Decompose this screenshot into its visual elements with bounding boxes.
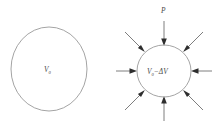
pressure-label: P: [160, 6, 166, 15]
pressure-arrow-top-left: [125, 32, 145, 52]
figure-canvas: V0: [0, 0, 216, 127]
uncompressed-volume-label: V0: [44, 65, 52, 75]
pressure-arrow-bottom-left: [125, 90, 145, 110]
pressure-arrow-left: [116, 68, 137, 74]
pressure-arrow-bottom: [161, 96, 167, 121]
uncompressed-sphere-outline: [11, 27, 87, 111]
uncompressed-sphere-group: V0: [11, 27, 87, 111]
physics-figure: V0: [0, 0, 216, 127]
compressed-sphere-group: V0−ΔV P: [116, 6, 212, 121]
pressure-arrow-top: [161, 21, 167, 46]
pressure-arrow-bottom-right: [183, 90, 203, 110]
pressure-arrow-top-right: [183, 32, 203, 52]
uncompressed-volume-subscript: 0: [49, 70, 52, 75]
compressed-volume-delta: −ΔV: [154, 67, 169, 76]
compressed-volume-label: V0−ΔV: [147, 67, 169, 77]
pressure-arrow-right: [191, 68, 212, 74]
